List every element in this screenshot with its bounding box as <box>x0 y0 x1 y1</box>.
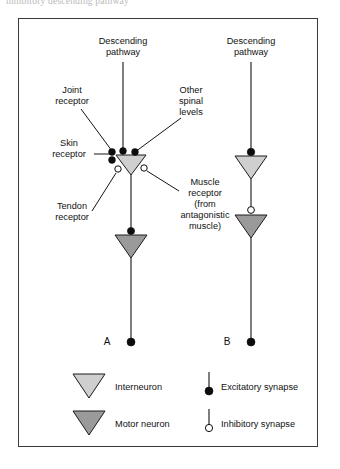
legend-inhibitory-synapse-icon <box>205 424 212 431</box>
panel-b-letter: B <box>224 336 231 347</box>
panel-a-muscle-receptor-connector <box>147 171 179 191</box>
panel-a: Descending pathway Joint receptor Other … <box>52 36 230 347</box>
neural-circuit-diagram: Descending pathway Joint receptor Other … <box>19 19 317 446</box>
panel-a-inhibitory-synapse-tendon <box>115 166 121 172</box>
panel-b: Descending pathway B <box>224 36 276 347</box>
panel-a-other-spinal-levels-label-line2: spinal <box>179 96 203 106</box>
panel-a-excitatory-synapse-skin <box>109 157 116 164</box>
panel-a-letter: A <box>104 336 111 347</box>
panel-a-skin-receptor-label-line2: receptor <box>52 149 86 159</box>
panel-a-other-spinal-levels-connector <box>135 118 181 152</box>
panel-a-other-spinal-levels-label-line1: Other <box>180 85 203 95</box>
figure-frame: Descending pathway Joint receptor Other … <box>18 18 318 447</box>
panel-a-tendon-receptor-label-line2: receptor <box>55 212 89 222</box>
panel-a-interneuron-triangle <box>116 155 146 175</box>
panel-a-muscle-receptor-label-line3: (from <box>194 199 216 209</box>
caption-text: inhibitory descending pathway <box>6 0 129 6</box>
panel-a-excitatory-synapse-descending <box>120 148 127 155</box>
panel-a-joint-receptor-label-line2: receptor <box>55 96 89 106</box>
panel-a-muscle-receptor-label-line2: receptor <box>188 188 222 198</box>
panel-b-inhibitory-synapse <box>248 207 255 214</box>
panel-a-tendon-receptor-label-line1: Tendon <box>57 201 87 211</box>
legend-inhibitory-synapse-label: Inhibitory synapse <box>221 419 295 429</box>
panel-a-inhibitory-synapse-muscle <box>141 165 147 171</box>
panel-a-tendon-receptor-connector <box>92 173 116 211</box>
panel-a-muscle-receptor-label-line4: antagonistic <box>180 210 229 220</box>
legend-interneuron-label: Interneuron <box>115 382 162 392</box>
legend-interneuron-icon <box>73 374 105 398</box>
panel-b-motor-neuron-triangle <box>235 215 267 238</box>
panel-a-excitatory-synapse-motor <box>127 227 134 234</box>
panel-a-joint-receptor-connector <box>81 109 112 151</box>
legend-excitatory-synapse-label: Excitatory synapse <box>221 382 298 392</box>
panel-a-descending-pathway-label-line1: Descending <box>99 36 148 46</box>
panel-b-motor-axon-terminal <box>247 338 255 346</box>
panel-a-skin-receptor-label-line1: Skin <box>60 138 78 148</box>
legend-motor-neuron-icon <box>73 411 105 435</box>
panel-a-motor-neuron-triangle <box>115 235 147 258</box>
panel-a-muscle-receptor-label-line5: muscle) <box>189 221 221 231</box>
panel-a-excitatory-synapse-other-spinal <box>132 149 139 156</box>
panel-a-motor-axon-terminal <box>127 338 135 346</box>
legend-excitatory-synapse-icon <box>205 387 213 395</box>
panel-b-interneuron-triangle <box>235 156 267 179</box>
legend-motor-neuron-label: Motor neuron <box>115 419 170 429</box>
figure-legend: Interneuron Motor neuron Excitatory syna… <box>73 372 298 435</box>
panel-a-excitatory-synapse-joint <box>109 149 116 156</box>
panel-b-descending-pathway-label-line1: Descending <box>227 36 276 46</box>
panel-a-other-spinal-levels-label-line3: levels <box>179 107 203 117</box>
panel-b-excitatory-synapse <box>247 148 255 156</box>
panel-b-descending-pathway-label-line2: pathway <box>234 47 269 57</box>
panel-a-descending-pathway-label-line2: pathway <box>106 47 141 57</box>
figure-caption-strip: inhibitory descending pathway <box>0 0 340 16</box>
panel-a-joint-receptor-label-line1: Joint <box>62 85 82 95</box>
panel-a-muscle-receptor-label-line1: Muscle <box>190 177 219 187</box>
